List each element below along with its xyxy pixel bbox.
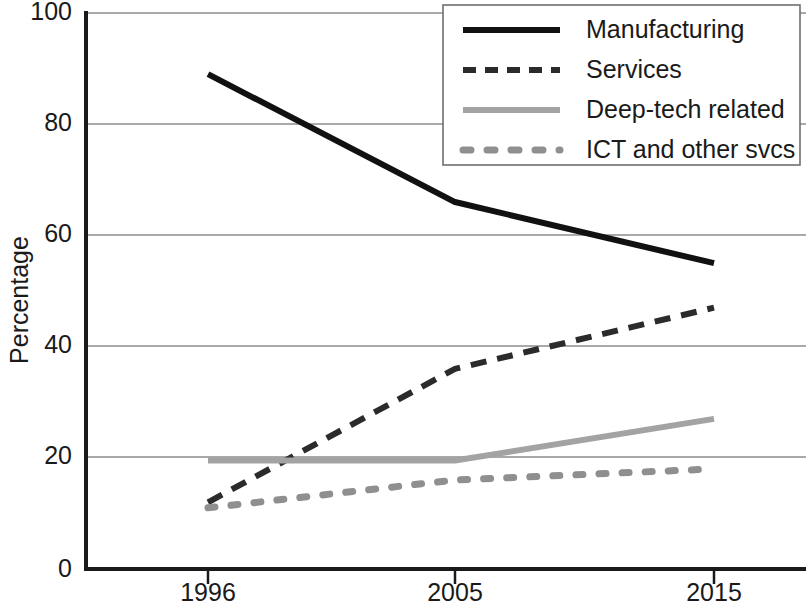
y-tick-label-80: 80	[44, 108, 72, 136]
chart-figure: 100 80 60 40 20 0 1996 2005 2015 Percent…	[0, 0, 806, 608]
y-tick-label-60: 60	[44, 219, 72, 247]
x-tick-label-2015: 2015	[686, 578, 742, 606]
y-axis-title: Percentage	[5, 236, 33, 364]
x-tick-label-2005: 2005	[427, 578, 483, 606]
y-tick-label-100: 100	[30, 0, 72, 25]
y-tick-label-20: 20	[44, 441, 72, 469]
line-chart: 100 80 60 40 20 0 1996 2005 2015 Percent…	[0, 0, 806, 608]
y-tick-label-40: 40	[44, 330, 72, 358]
x-tick-label-1996: 1996	[180, 578, 236, 606]
legend-label-services: Services	[586, 55, 682, 83]
legend-label-ict-and-other-svcs: ICT and other svcs	[586, 135, 795, 163]
legend-label-deep-tech-related: Deep-tech related	[586, 95, 785, 123]
y-tick-label-0: 0	[58, 554, 72, 582]
legend-label-manufacturing: Manufacturing	[586, 15, 744, 43]
legend: Manufacturing Services Deep-tech related…	[443, 5, 800, 165]
